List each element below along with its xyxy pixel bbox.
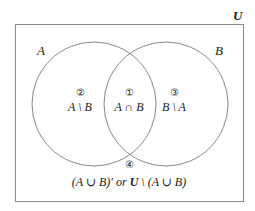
- set-b-label: B: [215, 43, 223, 58]
- region-4-expression: (A ∪ B)′ or U \ (A ∪ B): [72, 175, 186, 189]
- region-4-expression-part1: (A ∪ B)′ or: [72, 175, 130, 189]
- universe-label: U: [233, 8, 243, 23]
- region-1-number: ①: [125, 87, 134, 98]
- region-2-number: ②: [76, 87, 85, 98]
- set-a-label: A: [36, 43, 45, 58]
- region-2-expression: A \ B: [67, 100, 92, 114]
- venn-diagram: U A B ① A ∩ B ② A \ B ③ B \ A ④ (A ∪ B)′…: [0, 0, 255, 211]
- region-3-expression: B \ A: [162, 100, 186, 114]
- region-4-expression-part2: \ (A ∪ B): [138, 175, 186, 189]
- region-1-expression: A ∩ B: [113, 100, 144, 114]
- region-3-number: ③: [170, 87, 179, 98]
- region-4-number: ④: [125, 159, 134, 170]
